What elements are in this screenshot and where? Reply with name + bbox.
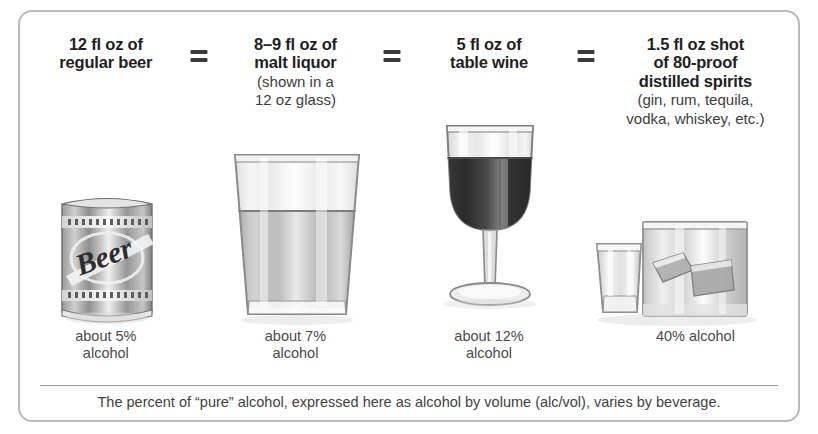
footnote-divider (40, 385, 778, 386)
heading-sub-line-1: (shown in a (204, 73, 388, 90)
wine-glass-icon (397, 106, 581, 338)
heading-line-2: table wine (397, 53, 581, 71)
heading-distilled-spirits: 1.5 fl oz shot of 80-proof distilled spi… (591, 10, 800, 127)
drink-column-regular-beer: 12 fl oz of regular beer (18, 10, 194, 370)
caption-line-1: 40% alcohol (591, 328, 800, 345)
drink-column-malt-liquor: 8–9 fl oz of malt liquor (shown in a 12 … (204, 10, 388, 370)
heading-line-1: 5 fl oz of (397, 35, 581, 53)
caption-line-1: about 7% (204, 328, 388, 345)
heading-line-3: distilled spirits (591, 72, 800, 90)
drink-column-distilled-spirits: 1.5 fl oz shot of 80-proof distilled spi… (591, 10, 800, 370)
heading-table-wine: 5 fl oz of table wine (397, 10, 581, 72)
heading-line-1: 8–9 fl oz of (204, 35, 388, 53)
equals-separator-3 (581, 10, 591, 370)
infographic-stage: 12 fl oz of regular beer (18, 10, 800, 422)
heading-line-2: regular beer (18, 53, 194, 71)
shot-and-tumbler-icon (591, 208, 800, 337)
heading-sub-line-2: vodka, whiskey, etc.) (591, 110, 800, 127)
equals-separator-1 (194, 10, 204, 370)
caption-line-1: about 12% (397, 328, 581, 345)
beer-can-icon: Beer (18, 192, 194, 336)
caption-line-2: alcohol (18, 345, 194, 362)
caption-table-wine: about 12% alcohol (397, 328, 581, 363)
caption-line-1: about 5% (18, 328, 194, 345)
caption-distilled-spirits: 40% alcohol (591, 328, 800, 345)
caption-malt-liquor: about 7% alcohol (204, 328, 388, 363)
heading-line-2: of 80-proof (591, 53, 800, 71)
caption-line-2: alcohol (397, 345, 581, 362)
heading-line-1: 1.5 fl oz shot (591, 35, 800, 53)
equals-separator-2 (387, 10, 397, 370)
caption-regular-beer: about 5% alcohol (18, 328, 194, 363)
heading-line-2: malt liquor (204, 53, 388, 71)
footnote-text: The percent of “pure” alcohol, expressed… (18, 394, 800, 410)
caption-line-2: alcohol (204, 345, 388, 362)
heading-malt-liquor: 8–9 fl oz of malt liquor (shown in a 12 … (204, 10, 388, 108)
pint-glass-icon (204, 138, 388, 337)
drink-equivalence-row: 12 fl oz of regular beer (18, 10, 800, 370)
heading-regular-beer: 12 fl oz of regular beer (18, 10, 194, 72)
drink-column-table-wine: 5 fl oz of table wine (397, 10, 581, 370)
heading-line-1: 12 fl oz of (18, 35, 194, 53)
heading-sub-line-1: (gin, rum, tequila, (591, 91, 800, 108)
heading-sub-line-2: 12 oz glass) (204, 91, 388, 108)
